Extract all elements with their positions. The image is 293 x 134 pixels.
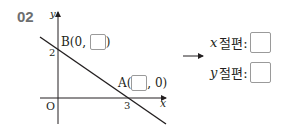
y-axis-label: y	[50, 8, 56, 19]
point-a-answer-box[interactable]	[131, 75, 147, 91]
x-axis-label: x	[160, 97, 166, 110]
x-intercept-tick: 3	[124, 100, 130, 111]
y-intercept-tick: 2	[49, 47, 55, 58]
y-intercept-answer: y절편:	[210, 62, 271, 83]
y-intercept-box[interactable]	[250, 62, 271, 83]
origin-label: O	[46, 100, 55, 113]
point-a-label: A(, 0)	[118, 75, 167, 91]
problem-02: 02 y x O 2 3 B(0, ) A(, 0) x절편: y절편:	[0, 0, 293, 134]
x-intercept-answer: x절편:	[210, 32, 271, 53]
x-intercept-box[interactable]	[250, 32, 271, 53]
point-b-answer-box[interactable]	[90, 34, 106, 50]
point-b-label: B(0, )	[61, 34, 110, 50]
